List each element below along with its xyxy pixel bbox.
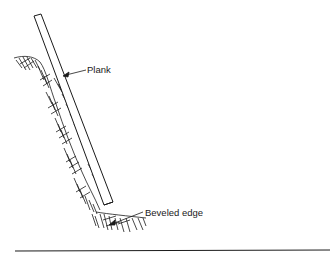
plank [34,14,113,205]
diagram-canvas: Plank Beveled edge [0,0,334,261]
toe-earth [92,212,146,232]
ground-line [15,250,330,251]
plank-label: Plank [87,65,111,75]
beveled-edge-label: Beveled edge [145,208,203,218]
